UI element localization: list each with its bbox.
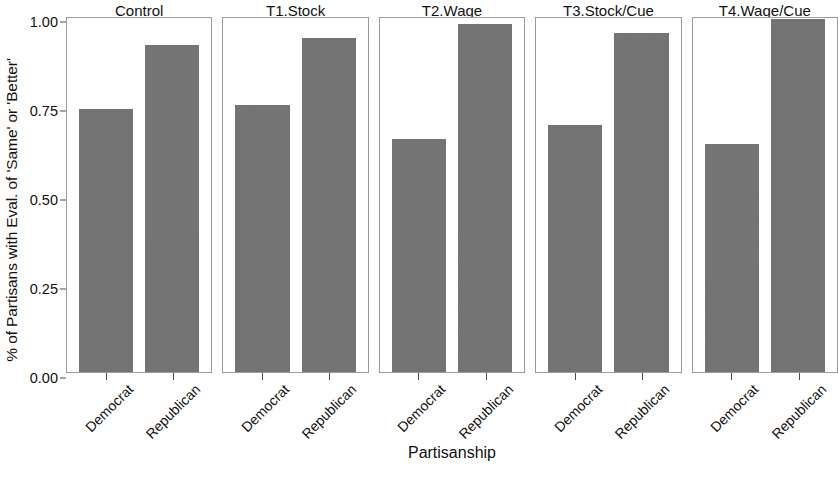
panel-title: T2.Wage bbox=[379, 0, 525, 17]
y-tick-label: 0.00 bbox=[30, 370, 58, 386]
bar-democrat[interactable] bbox=[235, 105, 289, 372]
bar-republican[interactable] bbox=[771, 19, 825, 372]
bar-democrat[interactable] bbox=[392, 139, 446, 373]
plot-area bbox=[66, 17, 212, 373]
plot-area bbox=[379, 17, 525, 373]
plot-area bbox=[222, 17, 368, 373]
bar-group bbox=[223, 18, 367, 372]
x-tick-label-democrat: Democrat bbox=[394, 381, 448, 435]
y-tick-label: 0.50 bbox=[30, 192, 58, 208]
x-tick-label-republican: Republican bbox=[612, 381, 673, 442]
bar-republican[interactable] bbox=[302, 38, 356, 373]
bar-democrat[interactable] bbox=[705, 144, 759, 372]
bar-republican[interactable] bbox=[145, 45, 199, 372]
x-tick-label-republican: Republican bbox=[142, 381, 203, 442]
y-axis-title: % of Partisans with Eval. of 'Same' or '… bbox=[0, 0, 24, 420]
x-axis-title: Partisanship bbox=[66, 444, 838, 462]
y-tick-label: 0.75 bbox=[30, 103, 58, 119]
y-axis: 0.000.250.500.751.00 bbox=[24, 0, 66, 420]
x-tick-label-democrat: Democrat bbox=[238, 381, 292, 435]
x-axis-labels: DemocratRepublican bbox=[222, 379, 368, 420]
x-tick-label-democrat: Democrat bbox=[82, 381, 136, 435]
x-axis-labels: DemocratRepublican bbox=[535, 379, 681, 420]
bar-democrat[interactable] bbox=[79, 109, 133, 373]
panel-control: ControlDemocratRepublican bbox=[66, 0, 212, 420]
panel-t1-stock: T1.StockDemocratRepublican bbox=[222, 0, 368, 420]
bar-democrat[interactable] bbox=[548, 125, 602, 373]
bar-group bbox=[536, 18, 680, 372]
bar-group bbox=[67, 18, 211, 372]
panel-row: ControlDemocratRepublicanT1.StockDemocra… bbox=[66, 0, 838, 420]
x-axis-labels: DemocratRepublican bbox=[66, 379, 212, 420]
plot-area bbox=[692, 17, 838, 373]
bar-group bbox=[693, 18, 837, 372]
panel-title: T3.Stock/Cue bbox=[535, 0, 681, 17]
x-tick-label-democrat: Democrat bbox=[551, 381, 605, 435]
x-axis-labels: DemocratRepublican bbox=[379, 379, 525, 420]
bar-republican[interactable] bbox=[458, 24, 512, 373]
x-tick-label-democrat: Democrat bbox=[707, 381, 761, 435]
y-axis-title-text: % of Partisans with Eval. of 'Same' or '… bbox=[3, 58, 21, 361]
bar-group bbox=[380, 18, 524, 372]
y-tick-label: 0.25 bbox=[30, 281, 58, 297]
panel-title: Control bbox=[66, 0, 212, 17]
x-tick-label-republican: Republican bbox=[455, 381, 516, 442]
x-axis-labels: DemocratRepublican bbox=[692, 379, 838, 420]
bar-chart-figure: % of Partisans with Eval. of 'Same' or '… bbox=[0, 0, 838, 479]
x-tick-label-republican: Republican bbox=[768, 381, 829, 442]
panel-t2-wage: T2.WageDemocratRepublican bbox=[379, 0, 525, 420]
bar-republican[interactable] bbox=[614, 33, 668, 373]
plot-area bbox=[535, 17, 681, 373]
panel-t3-stock-cue: T3.Stock/CueDemocratRepublican bbox=[535, 0, 681, 420]
panel-title: T4.Wage/Cue bbox=[692, 0, 838, 17]
x-tick-label-republican: Republican bbox=[299, 381, 360, 442]
panel-t4-wage-cue: T4.Wage/CueDemocratRepublican bbox=[692, 0, 838, 420]
y-tick-label: 1.00 bbox=[30, 14, 58, 30]
panel-title: T1.Stock bbox=[222, 0, 368, 17]
